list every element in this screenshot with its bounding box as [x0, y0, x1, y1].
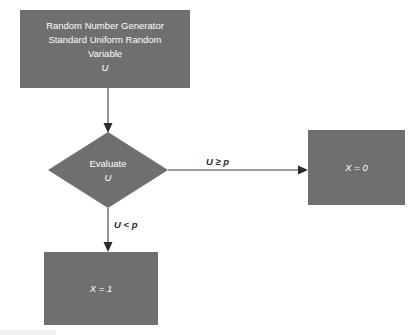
- scan-edge-artifact: [0, 330, 56, 335]
- generator-line-3: Variable: [88, 48, 122, 59]
- edge-decision-to-outcome-one: [104, 208, 113, 252]
- node-random-number-generator[interactable]: Random Number Generator Standard Uniform…: [20, 10, 190, 88]
- edge-label-u-geq-p: U ≥ p: [206, 156, 229, 167]
- flowchart-canvas: Random Number Generator Standard Uniform…: [0, 0, 418, 335]
- edge-decision-to-outcome-zero: [168, 166, 308, 175]
- edge-label-u-lt-p: U < p: [114, 219, 138, 230]
- outcome-one-label: X = 1: [89, 283, 112, 294]
- generator-variable-symbol: U: [102, 62, 109, 73]
- node-outcome-x-equals-zero[interactable]: X = 0: [308, 130, 405, 205]
- decision-variable-symbol: U: [105, 172, 112, 183]
- node-outcome-x-equals-one[interactable]: X = 1: [44, 252, 158, 325]
- decision-line-1: Evaluate: [90, 158, 127, 169]
- generator-line-2: Standard Uniform Random: [49, 34, 162, 45]
- flowchart-svg: Random Number Generator Standard Uniform…: [0, 0, 418, 335]
- edge-generator-to-decision: [104, 88, 113, 133]
- node-decision-evaluate[interactable]: Evaluate U: [48, 132, 168, 208]
- generator-line-1: Random Number Generator: [46, 20, 164, 31]
- outcome-zero-label: X = 0: [344, 162, 368, 173]
